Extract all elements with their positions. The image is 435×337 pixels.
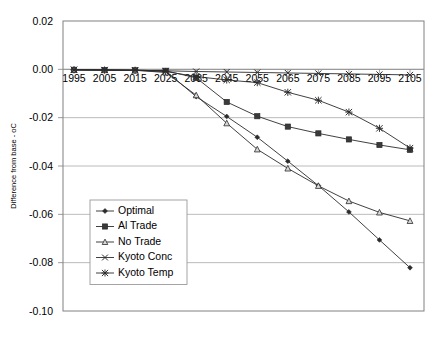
- marker-star: [223, 76, 230, 83]
- marker-square: [346, 137, 351, 142]
- x-tick-label: 2015: [123, 72, 147, 84]
- x-tick-label: 2065: [276, 72, 300, 84]
- marker-star: [162, 68, 169, 75]
- y-tick-label: -0.04: [29, 160, 53, 172]
- y-axis-title: Difference from base - oC: [9, 123, 18, 209]
- y-tick-label: -0.06: [29, 208, 53, 220]
- marker-star: [102, 270, 109, 277]
- marker-star: [131, 67, 138, 74]
- y-tick-label: 0.00: [33, 63, 54, 75]
- y-tick-label: 0.02: [33, 15, 54, 27]
- legend-label: No Trade: [118, 235, 161, 247]
- marker-square: [377, 142, 382, 147]
- legend-label: Optimal: [118, 204, 154, 216]
- legend-label: Kyoto Conc: [118, 250, 172, 262]
- marker-star: [315, 97, 322, 104]
- marker-star: [284, 89, 291, 96]
- x-tick-label: 2005: [93, 72, 117, 84]
- marker-star: [345, 109, 352, 116]
- marker-star: [193, 73, 200, 80]
- marker-square: [224, 99, 229, 104]
- chart-background: [0, 0, 435, 337]
- y-tick-label: -0.10: [29, 305, 53, 317]
- marker-star: [70, 66, 77, 73]
- line-chart: 0.020.00-0.02-0.04-0.06-0.08-0.10 199520…: [0, 0, 435, 337]
- y-tick-label: -0.02: [29, 111, 53, 123]
- y-tick-label: -0.08: [29, 256, 53, 268]
- chart-container: 0.020.00-0.02-0.04-0.06-0.08-0.10 199520…: [0, 0, 435, 337]
- marker-square: [102, 224, 107, 229]
- marker-square: [255, 114, 260, 119]
- marker-star: [254, 79, 261, 86]
- marker-star: [406, 145, 413, 152]
- chart-legend: OptimalAl TradeNo TradeKyoto ConcKyoto T…: [90, 200, 187, 285]
- marker-star: [101, 66, 108, 73]
- marker-square: [285, 124, 290, 129]
- legend-label: Kyoto Temp: [118, 266, 173, 278]
- legend-label: Al Trade: [118, 219, 157, 231]
- marker-square: [316, 131, 321, 136]
- x-tick-label: 1995: [62, 72, 86, 84]
- marker-star: [376, 125, 383, 132]
